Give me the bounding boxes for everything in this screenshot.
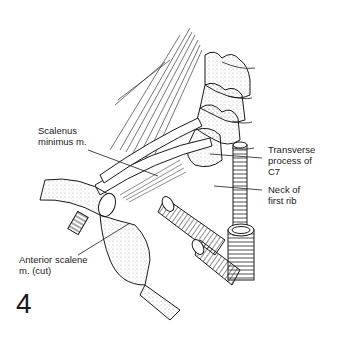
label-anterior-scalene: Anterior scalene m. (cut) <box>19 254 88 276</box>
cut-muscle <box>40 179 180 320</box>
figure-number: 4 <box>16 290 32 318</box>
label-transverse-process: Transverse process of C7 <box>268 144 315 177</box>
label-scalenus-minimus: Scalenus minimus m. <box>38 125 87 147</box>
label-neck-of-first-rib: Neck of first rib <box>268 184 300 206</box>
